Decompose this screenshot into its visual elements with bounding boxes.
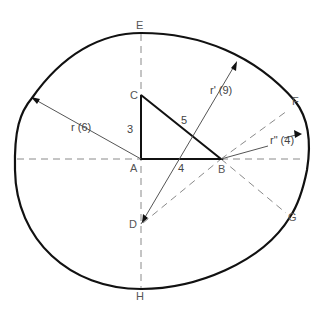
arrowhead-icon	[31, 97, 40, 104]
point-label-e: E	[136, 19, 143, 31]
point-label-b: B	[218, 163, 225, 175]
point-label-c: C	[130, 89, 138, 101]
point-label-f: F	[292, 95, 299, 107]
point-label-h: H	[136, 290, 144, 302]
point-label-g: G	[288, 211, 297, 223]
radius-label-r-double-prime: r" (4)	[270, 134, 294, 146]
side-label-ac: 3	[127, 123, 133, 135]
radius-label-r: r (6)	[71, 121, 91, 133]
line-b-g	[221, 159, 286, 213]
oval-outline	[15, 33, 309, 289]
side-label-bc: 5	[181, 114, 187, 126]
arrowhead-icon	[294, 130, 302, 138]
point-label-a: A	[130, 162, 138, 174]
oval-construction-diagram: 3 5 4 r (6) r' (9) r" (4) E C A B D H F …	[0, 0, 323, 313]
construction-lines	[17, 34, 305, 289]
side-label-ab: 4	[178, 162, 184, 174]
triangle-abc	[141, 95, 221, 159]
radius-label-r-prime: r' (9)	[210, 84, 232, 96]
point-label-d: D	[129, 218, 137, 230]
